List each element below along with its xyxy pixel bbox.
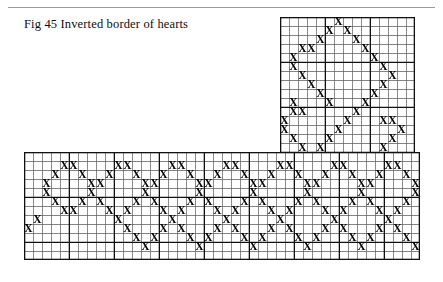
horizontal-band-grid <box>24 152 420 260</box>
top-divider-rule <box>8 7 435 8</box>
figure-caption: Fig 45 Inverted border of hearts <box>24 17 188 32</box>
horizontal-border-band: XXXXXXXXXXXXXXXXXXXXXXXXXXXXXXXXXXXXXXXX… <box>24 152 420 260</box>
figure-page: Fig 45 Inverted border of hearts XXXXXXX… <box>0 0 443 282</box>
